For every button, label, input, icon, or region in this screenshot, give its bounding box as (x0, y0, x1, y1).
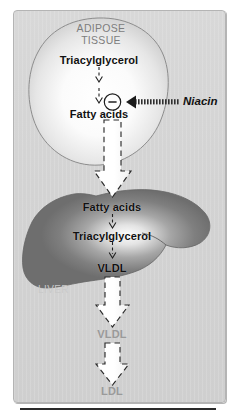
adipose-organ-label-line1: ADIPOSE (77, 22, 126, 34)
white-block-arrow-icon (96, 277, 129, 327)
liver-vldl-label: VLDL (97, 262, 126, 274)
plasma-vldl-label: VLDL (97, 328, 127, 340)
liver-triacylglycerol-label: Triacylglycerol (73, 230, 152, 242)
lipid-metabolism-diagram: ADIPOSE TISSUE Triacylglycerol Fatty aci… (0, 0, 237, 417)
adipose-triacylglycerol-label: Triacylglycerol (60, 54, 139, 66)
liver-organ-label: LIVER (38, 284, 69, 295)
niacin-label: Niacin (183, 95, 218, 107)
white-block-arrow-icon (96, 343, 129, 385)
plasma-ldl-label: LDL (101, 385, 123, 397)
adipose-fatty-acids-label: Fatty acids (70, 108, 129, 120)
liver-fatty-acids-label: Fatty acids (83, 201, 142, 213)
adipose-organ-label-line2: TISSUE (81, 34, 121, 46)
caption-rule (20, 408, 216, 410)
